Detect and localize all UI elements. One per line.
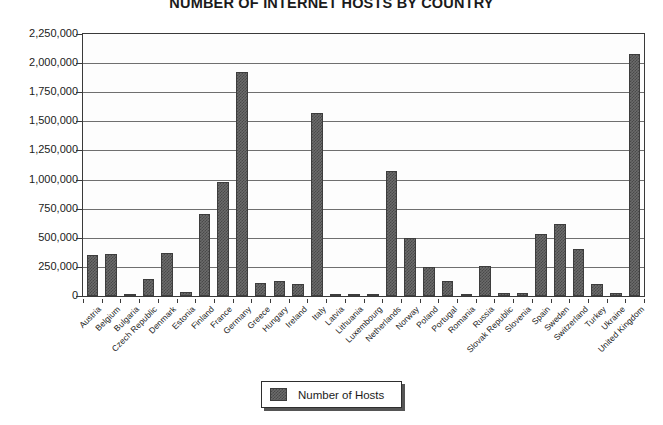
x-tick-mark bbox=[494, 299, 495, 303]
bar[interactable] bbox=[348, 294, 360, 296]
y-tick-label: 1,000,000 bbox=[0, 173, 78, 185]
bar[interactable] bbox=[610, 293, 622, 296]
bar-slot bbox=[629, 34, 641, 296]
bar-slot bbox=[274, 34, 286, 296]
bar[interactable] bbox=[143, 279, 155, 296]
x-tick-mark bbox=[251, 299, 252, 303]
x-tick-mark bbox=[177, 299, 178, 303]
x-tick-mark bbox=[195, 299, 196, 303]
x-tick-mark bbox=[644, 299, 645, 303]
bar-slot bbox=[442, 34, 454, 296]
x-tick-mark bbox=[289, 299, 290, 303]
x-tick-mark bbox=[382, 299, 383, 303]
bar-slot bbox=[255, 34, 267, 296]
y-tick-mark bbox=[76, 296, 82, 297]
bar[interactable] bbox=[573, 249, 585, 296]
bar[interactable] bbox=[367, 294, 379, 296]
chart-title: NUMBER OF INTERNET HOSTS BY COUNTRY bbox=[0, 0, 663, 12]
bar[interactable] bbox=[274, 281, 286, 296]
y-tick-label: 2,250,000 bbox=[0, 27, 78, 39]
bar[interactable] bbox=[498, 293, 510, 296]
x-tick-mark bbox=[569, 299, 570, 303]
legend-label: Number of Hosts bbox=[298, 389, 384, 401]
y-tick-mark bbox=[76, 209, 82, 210]
bar-slot bbox=[124, 34, 136, 296]
bar-slot bbox=[367, 34, 379, 296]
x-tick-mark bbox=[345, 299, 346, 303]
x-tick-mark bbox=[307, 299, 308, 303]
x-tick-mark bbox=[420, 299, 421, 303]
bar[interactable] bbox=[217, 182, 229, 296]
bar-slot bbox=[161, 34, 173, 296]
x-tick-mark bbox=[588, 299, 589, 303]
bar-slot bbox=[517, 34, 529, 296]
bar-slot bbox=[610, 34, 622, 296]
legend: Number of Hosts bbox=[261, 381, 402, 408]
bar-slot bbox=[217, 34, 229, 296]
x-tick-mark bbox=[532, 299, 533, 303]
bar-chart: NUMBER OF INTERNET HOSTS BY COUNTRY 2,25… bbox=[0, 0, 663, 425]
x-tick-mark bbox=[233, 299, 234, 303]
x-tick-mark bbox=[438, 299, 439, 303]
bar-slot bbox=[143, 34, 155, 296]
y-tick-label: 1,750,000 bbox=[0, 85, 78, 97]
y-tick-mark bbox=[76, 63, 82, 64]
bar[interactable] bbox=[161, 253, 173, 296]
bar-slot bbox=[292, 34, 304, 296]
bar[interactable] bbox=[236, 72, 248, 296]
bar[interactable] bbox=[479, 266, 491, 296]
legend-swatch-icon bbox=[270, 388, 287, 401]
bar[interactable] bbox=[442, 281, 454, 296]
bar[interactable] bbox=[105, 254, 117, 297]
bar[interactable] bbox=[87, 255, 99, 296]
bar-slot bbox=[461, 34, 473, 296]
bar-slot bbox=[348, 34, 360, 296]
bar[interactable] bbox=[535, 234, 547, 296]
y-tick-mark bbox=[76, 180, 82, 181]
bar-slot bbox=[236, 34, 248, 296]
bar-slot bbox=[87, 34, 99, 296]
bar[interactable] bbox=[554, 224, 566, 296]
x-tick-mark bbox=[326, 299, 327, 303]
bar-slot bbox=[591, 34, 603, 296]
bar-slot bbox=[498, 34, 510, 296]
bar[interactable] bbox=[461, 294, 473, 296]
bar-slot bbox=[423, 34, 435, 296]
x-axis: AustriaBelgiumBulgariaCzech RepublicDenm… bbox=[83, 299, 644, 379]
x-tick-mark bbox=[214, 299, 215, 303]
bar-slot bbox=[180, 34, 192, 296]
bar-slot bbox=[105, 34, 117, 296]
bar[interactable] bbox=[330, 294, 342, 296]
bar-slot bbox=[404, 34, 416, 296]
y-tick-mark bbox=[76, 238, 82, 239]
bar[interactable] bbox=[124, 294, 136, 296]
x-tick-mark bbox=[158, 299, 159, 303]
bar[interactable] bbox=[591, 284, 603, 296]
bar[interactable] bbox=[404, 238, 416, 296]
y-tick-label: 500,000 bbox=[0, 231, 78, 243]
bar[interactable] bbox=[255, 283, 267, 296]
bar-slot bbox=[330, 34, 342, 296]
bar[interactable] bbox=[311, 113, 323, 296]
y-tick-label: 0 bbox=[0, 289, 78, 301]
bar-slot bbox=[573, 34, 585, 296]
y-tick-mark bbox=[76, 92, 82, 93]
x-tick-mark bbox=[513, 299, 514, 303]
bar[interactable] bbox=[517, 293, 529, 296]
x-tick-mark bbox=[551, 299, 552, 303]
bar-slot bbox=[554, 34, 566, 296]
bar[interactable] bbox=[629, 54, 641, 296]
x-tick-mark bbox=[139, 299, 140, 303]
x-tick-mark bbox=[270, 299, 271, 303]
bar[interactable] bbox=[180, 292, 192, 296]
x-tick-mark bbox=[102, 299, 103, 303]
x-tick-mark bbox=[476, 299, 477, 303]
bar[interactable] bbox=[199, 214, 211, 296]
bar[interactable] bbox=[292, 284, 304, 296]
y-tick-label: 1,250,000 bbox=[0, 143, 78, 155]
bar[interactable] bbox=[386, 171, 398, 296]
bar-slot bbox=[479, 34, 491, 296]
bar-slot bbox=[386, 34, 398, 296]
x-tick-mark bbox=[120, 299, 121, 303]
bar[interactable] bbox=[423, 267, 435, 296]
